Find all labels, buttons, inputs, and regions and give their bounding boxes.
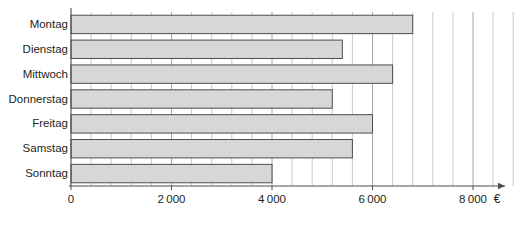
category-label-samstag: Samstag xyxy=(23,142,68,154)
category-label-mittwoch: Mittwoch xyxy=(23,68,68,80)
category-label-freitag: Freitag xyxy=(32,117,68,129)
bar-chart: MontagDienstagMittwochDonnerstagFreitagS… xyxy=(0,0,527,227)
x-axis-arrow-icon xyxy=(498,183,505,189)
bar-dienstag xyxy=(71,40,342,58)
category-label-donnerstag: Donnerstag xyxy=(9,93,68,105)
bar-freitag xyxy=(71,115,373,133)
chart-canvas: MontagDienstagMittwochDonnerstagFreitagS… xyxy=(0,0,527,227)
x-tick-label: 0 xyxy=(68,193,74,205)
bar-mittwoch xyxy=(71,65,393,83)
category-label-montag: Montag xyxy=(30,18,68,30)
x-tick-label: 6 000 xyxy=(359,193,387,205)
category-label-sonntag: Sonntag xyxy=(25,167,68,179)
x-tick-label: 8 000 xyxy=(459,193,487,205)
bar-montag xyxy=(71,15,413,33)
x-tick-label: 4 000 xyxy=(258,193,286,205)
x-tick-label: 2 000 xyxy=(158,193,186,205)
bar-donnerstag xyxy=(71,90,332,108)
category-label-dienstag: Dienstag xyxy=(23,43,68,55)
axis-unit-label: € xyxy=(494,192,501,206)
bar-sonntag xyxy=(71,164,272,182)
bar-samstag xyxy=(71,140,352,158)
